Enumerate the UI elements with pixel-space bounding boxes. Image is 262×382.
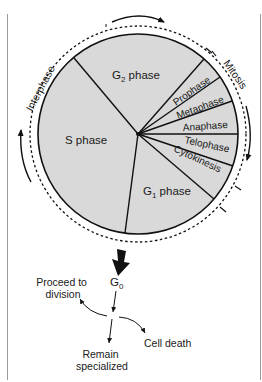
hub [136, 132, 140, 136]
arrow-to-g0 [112, 249, 130, 276]
arrow-to-remain [109, 319, 112, 343]
arrow-g0-down [113, 291, 116, 312]
arrow-to-proceed [80, 299, 107, 316]
label-proceed-to-division: Proceed to division [36, 276, 90, 300]
cell-cycle-diagram: G2 phase S phase G1 phase Prophase Metap… [0, 0, 262, 382]
arrow-to-death [119, 317, 145, 333]
label-s-phase: S phase [65, 134, 107, 146]
label-remain-specialized: Remain specialized [76, 348, 128, 372]
label-g0: G0 [110, 276, 124, 291]
arrow-top-clockwise [112, 16, 164, 22]
label-cell-death: Cell death [144, 337, 191, 349]
